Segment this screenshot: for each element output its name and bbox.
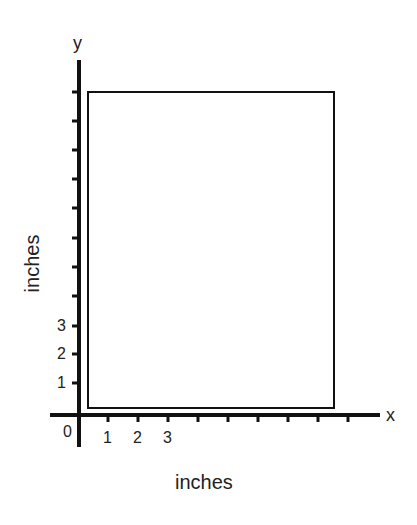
x-tick-label-3: 3	[163, 430, 172, 446]
origin-label: 0	[63, 424, 72, 440]
x-unit-label: inches	[175, 472, 233, 492]
y-tick-label-3: 3	[57, 318, 66, 334]
rectangle-shape	[88, 92, 334, 408]
y-tick-label-2: 2	[57, 346, 66, 362]
y-axis-name: y	[73, 34, 82, 52]
coordinate-diagram	[0, 0, 417, 525]
y-tick-label-1: 1	[57, 375, 66, 391]
x-tick-label-1: 1	[103, 430, 112, 446]
y-unit-label: inches	[21, 234, 44, 294]
x-axis-name: x	[386, 406, 395, 424]
x-tick-label-2: 2	[133, 430, 142, 446]
